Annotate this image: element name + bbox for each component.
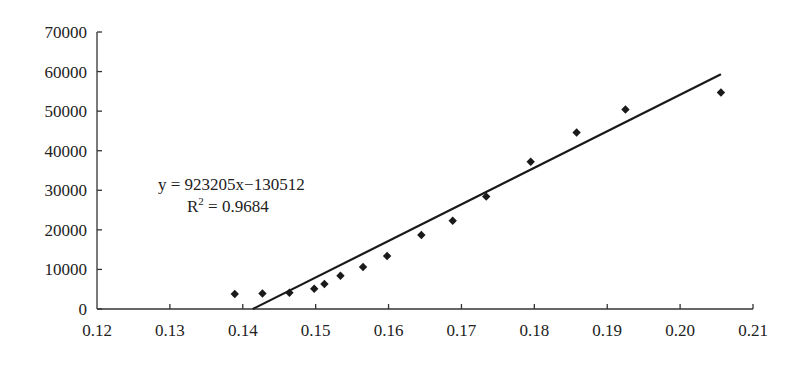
data-point-diamond (320, 280, 328, 288)
data-point-diamond (448, 217, 456, 225)
data-point-diamond (231, 290, 239, 298)
scatter-chart: 010000200003000040000500006000070000 0.1… (0, 0, 803, 383)
y-tick-label: 30000 (45, 181, 88, 200)
data-point-diamond (359, 263, 367, 271)
data-point-diamond (621, 105, 629, 113)
x-tick-label: 0.21 (738, 321, 768, 340)
y-axis-ticks (97, 32, 102, 309)
r-squared-label: R2 = 0.9684 (187, 195, 269, 216)
y-tick-label: 10000 (45, 260, 88, 279)
data-point-diamond (383, 252, 391, 260)
x-tick-label: 0.14 (228, 321, 258, 340)
y-tick-label: 20000 (45, 221, 88, 240)
data-point-diamond (258, 289, 266, 297)
x-tick-label: 0.16 (374, 321, 404, 340)
x-tick-label: 0.12 (82, 321, 112, 340)
y-tick-label: 50000 (45, 102, 88, 121)
x-axis-tick-labels: 0.120.130.140.150.160.170.180.190.200.21 (82, 321, 768, 340)
y-tick-label: 0 (79, 300, 88, 319)
y-tick-label: 40000 (45, 142, 88, 161)
data-point-diamond (310, 285, 318, 293)
x-tick-label: 0.20 (665, 321, 695, 340)
x-tick-label: 0.13 (155, 321, 185, 340)
x-tick-label: 0.17 (447, 321, 477, 340)
data-point-diamond (526, 158, 534, 166)
data-point-diamond (717, 88, 725, 96)
linear-trendline (253, 74, 721, 309)
data-points (231, 88, 726, 298)
x-tick-label: 0.19 (592, 321, 622, 340)
x-tick-label: 0.18 (519, 321, 549, 340)
y-tick-label: 60000 (45, 63, 88, 82)
trendline-equation: y = 923205x−130512 (158, 175, 305, 194)
axes (97, 32, 753, 309)
data-point-diamond (572, 128, 580, 136)
data-point-diamond (417, 231, 425, 239)
y-axis-tick-labels: 010000200003000040000500006000070000 (45, 23, 88, 319)
y-tick-label: 70000 (45, 23, 88, 42)
data-point-diamond (336, 272, 344, 280)
x-tick-label: 0.15 (301, 321, 331, 340)
